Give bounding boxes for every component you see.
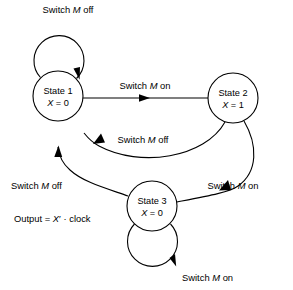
label-prefix-5: Switch [182, 272, 212, 283]
state1-circle [33, 71, 83, 121]
state2-circle [208, 73, 258, 123]
transition-state3-to-state1-path [58, 147, 128, 196]
state2-output-value: = 1 [228, 100, 244, 110]
transition-state3-self-loop-arrowhead [170, 254, 177, 267]
label-var-5: M [212, 272, 220, 283]
output-equation-annotation: Output = X′ · clock [14, 213, 91, 224]
state-diagram-svg: Switch M off Switch M on Switch M off Sw… [0, 0, 293, 290]
state3-name-label: State 3 [137, 196, 166, 206]
state3-circle [127, 181, 177, 231]
transition-state3-self-loop-label: Switch M on [182, 272, 233, 283]
label-var-4: M [41, 180, 49, 191]
state3-output-label: X = 0 [140, 208, 163, 218]
transition-state1-self-loop-label: Switch M off [43, 4, 94, 15]
label-suffix-2: off [156, 134, 169, 145]
state2-name-label: State 2 [218, 88, 247, 98]
state1-name-label: State 1 [43, 86, 72, 96]
transition-state3-to-state1-label: Switch M off [11, 180, 62, 191]
state-node-state3[interactable]: State 3 X = 0 [127, 181, 177, 231]
label-var-1: M [150, 80, 158, 91]
transition-state1-to-state2-arrowhead [139, 94, 150, 101]
output-equation-suffix: · clock [61, 213, 91, 224]
state3-output-value: = 0 [147, 208, 163, 218]
transition-state1-to-state2[interactable] [83, 94, 208, 101]
label-suffix-4: off [49, 180, 62, 191]
label-suffix-5: on [220, 272, 233, 283]
label-var-2: M [148, 134, 156, 145]
label-prefix-2: Switch [118, 134, 148, 145]
state1-output-value: = 0 [53, 98, 69, 108]
label-prefix-1: Switch [119, 80, 149, 91]
transition-state1-to-state2-label: Switch M on [119, 80, 170, 91]
label-suffix-3: on [245, 180, 258, 191]
transition-state2-to-state1-label: Switch M off [118, 134, 169, 145]
transition-state3-to-state1-arrowhead [54, 146, 62, 158]
state-diagram-canvas: Switch M off Switch M on Switch M off Sw… [0, 0, 293, 290]
label-suffix-1: on [157, 80, 170, 91]
label-suffix-0: off [81, 4, 94, 15]
state-node-state2[interactable]: State 2 X = 1 [208, 73, 258, 123]
label-var-0: M [73, 4, 81, 15]
transition-state2-to-state1-arrowhead [93, 134, 105, 145]
transition-state2-to-state3-label: Switch M on [207, 180, 258, 191]
label-prefix-3: Switch [207, 180, 237, 191]
label-prefix-4: Switch [11, 180, 41, 191]
label-var-3: M [238, 180, 246, 191]
state-node-state1[interactable]: State 1 X = 0 [33, 71, 83, 121]
state1-output-label: X = 0 [46, 98, 69, 108]
output-equation-prefix: Output = [14, 213, 53, 224]
state2-output-label: X = 1 [221, 100, 244, 110]
label-prefix-0: Switch [43, 4, 73, 15]
